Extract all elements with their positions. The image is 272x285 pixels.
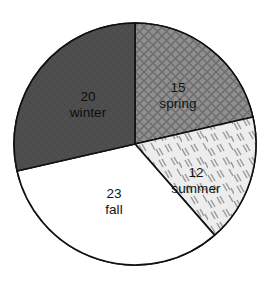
- slice-label-fall: 23 fall: [105, 186, 123, 217]
- slice-name-summer: summer: [171, 181, 221, 196]
- slice-value-summer: 12: [188, 165, 203, 180]
- slice-name-winter: winter: [69, 105, 107, 120]
- slice-value-winter: 20: [80, 89, 95, 104]
- pie-chart-svg: 15 spring 12 summer 23 fall 20 winter: [0, 0, 272, 285]
- slice-value-fall: 23: [106, 186, 121, 201]
- pie-chart-figure: 15 spring 12 summer 23 fall 20 winter: [0, 0, 272, 285]
- slice-value-spring: 15: [170, 80, 185, 95]
- pie-slice-winter[interactable]: [14, 23, 135, 171]
- slice-name-fall: fall: [105, 202, 123, 217]
- slice-name-spring: spring: [159, 96, 196, 111]
